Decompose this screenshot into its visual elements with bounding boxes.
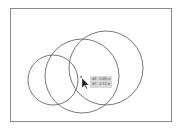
left-circle[interactable] (28, 55, 78, 105)
measurement-tooltip: dX: -0.68 in dY: -0.12 in (90, 76, 112, 88)
drawing-canvas[interactable] (0, 0, 182, 131)
anchor-point (80, 76, 82, 78)
tooltip-dy: dY: -0.12 in (92, 82, 110, 87)
arrow-pointer-icon (82, 78, 89, 89)
right-circle[interactable] (69, 31, 143, 105)
